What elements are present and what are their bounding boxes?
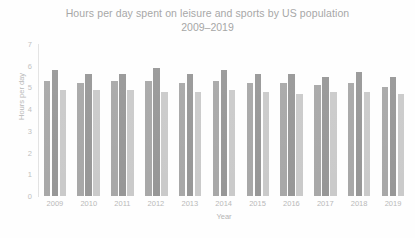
y-axis-tick: 6 — [28, 61, 38, 70]
bar-group — [179, 44, 202, 196]
y-axis-tick: 1 — [28, 170, 38, 179]
bar-group — [280, 44, 303, 196]
x-axis-tick: 2013 — [181, 199, 198, 208]
x-axis-tick: 2010 — [80, 199, 97, 208]
x-axis-tick: 2015 — [249, 199, 266, 208]
bar — [44, 81, 51, 196]
bar — [111, 81, 118, 196]
bar — [322, 77, 329, 196]
y-axis-tick: 4 — [28, 105, 38, 114]
bar — [255, 74, 262, 196]
y-axis-tick: 2 — [28, 148, 38, 157]
bar — [145, 81, 152, 196]
bar — [60, 90, 67, 196]
bar — [356, 72, 363, 196]
bar — [398, 94, 405, 196]
x-axis-tick: 2014 — [215, 199, 232, 208]
x-axis-label: Year — [38, 212, 410, 221]
bar — [52, 70, 59, 196]
bar — [263, 92, 270, 196]
bar — [77, 83, 84, 196]
plot-area: 76543210 — [38, 44, 410, 196]
bar — [296, 94, 303, 196]
chart-subtitle: 2009–2019 — [0, 20, 415, 34]
y-axis-tick: 5 — [28, 83, 38, 92]
y-axis-tick: 3 — [28, 126, 38, 135]
bar-groups — [38, 44, 410, 196]
y-axis-tick: 7 — [28, 40, 38, 49]
x-axis-tick: 2009 — [47, 199, 64, 208]
bar-group — [111, 44, 134, 196]
bar — [229, 90, 236, 196]
bar-group — [44, 44, 67, 196]
bar — [288, 74, 295, 196]
bar-group — [348, 44, 371, 196]
x-axis-tick: 2016 — [283, 199, 300, 208]
bar-group — [145, 44, 168, 196]
bar — [195, 92, 202, 196]
chart-title: Hours per day spent on leisure and sport… — [0, 6, 415, 20]
bar — [179, 83, 186, 196]
bar — [221, 70, 228, 196]
bar — [161, 92, 168, 196]
y-axis-label: Hours per day — [17, 73, 26, 120]
bar — [348, 83, 355, 196]
bar-group — [213, 44, 236, 196]
bar — [247, 83, 254, 196]
bar — [330, 92, 337, 196]
bar — [280, 83, 287, 196]
bar — [127, 90, 134, 196]
bar — [213, 81, 220, 196]
bar — [93, 90, 100, 196]
bar — [364, 92, 371, 196]
bar — [382, 87, 389, 196]
bar — [119, 74, 126, 196]
bar-group — [382, 44, 405, 196]
bar — [390, 77, 397, 196]
y-axis-tick: 0 — [28, 192, 38, 201]
bar-group — [247, 44, 270, 196]
bar — [85, 74, 92, 196]
bar-group — [314, 44, 337, 196]
x-axis-tick: 2018 — [351, 199, 368, 208]
x-axis-tick: 2019 — [385, 199, 402, 208]
x-axis-tick: 2011 — [114, 199, 130, 208]
leisure-sports-bar-chart: Hours per day spent on leisure and sport… — [0, 0, 415, 238]
x-axis-tick: 2017 — [317, 199, 334, 208]
bar-group — [77, 44, 100, 196]
bar — [187, 74, 194, 196]
bar — [153, 68, 160, 196]
x-axis-tick: 2012 — [148, 199, 165, 208]
bar — [314, 85, 321, 196]
x-axis-ticks: 2009201020112012201320142015201620172018… — [38, 199, 410, 208]
